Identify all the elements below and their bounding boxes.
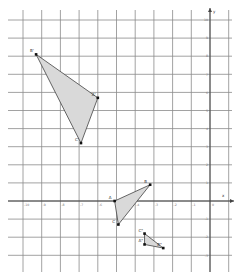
y-tick-label: 6 (206, 91, 208, 95)
vertex-label: A (109, 195, 112, 200)
y-tick-label: -1 (205, 217, 208, 221)
y-tick-label: 7 (206, 73, 208, 77)
vertex-point (143, 243, 146, 246)
vertex-label: B' (30, 48, 34, 53)
y-tick-label: 3 (206, 145, 208, 149)
y-axis-arrow-icon (208, 8, 212, 12)
y-tick-label: 9 (206, 36, 208, 40)
vertex-label: B" (157, 242, 162, 247)
x-tick-label: -4 (136, 203, 139, 207)
x-axis-label: x (222, 193, 225, 198)
triangle-abc (115, 185, 151, 225)
y-tick-label: -3 (205, 254, 208, 258)
x-tick-label: -10 (24, 203, 29, 207)
vertex-label: C (112, 219, 115, 224)
x-axis-arrow-icon (230, 199, 234, 203)
y-tick-label: 4 (206, 127, 208, 131)
vertex-label: A' (92, 92, 96, 97)
x-tick-label: -3 (155, 203, 158, 207)
vertex-label: C" (139, 228, 144, 233)
origin-label: 0 (212, 203, 214, 207)
x-tick-label: -1 (192, 203, 195, 207)
triangle-abc (36, 54, 98, 143)
x-tick-label: -9 (43, 203, 46, 207)
vertex-point (149, 183, 152, 186)
vertex-label: C' (75, 137, 79, 142)
vertex-point (97, 97, 100, 100)
vertex-label: A" (139, 238, 144, 243)
y-axis-label: y (213, 9, 216, 14)
vertex-point (117, 223, 120, 226)
y-tick-label: -2 (205, 235, 208, 239)
vertex-point (80, 142, 83, 145)
x-tick-label: -8 (61, 203, 64, 207)
coordinate-grid: xy-10-9-8-7-6-5-4-3-2-110987654321-1-2-3… (0, 0, 236, 276)
coordinate-plane-diagram: xy-10-9-8-7-6-5-4-3-2-110987654321-1-2-3… (0, 0, 236, 276)
vertex-point (162, 247, 165, 250)
y-tick-label: 1 (206, 181, 208, 185)
vertex-point (113, 200, 116, 203)
y-tick-label: 2 (206, 163, 208, 167)
x-tick-label: -7 (80, 203, 83, 207)
y-tick-label: 10 (204, 18, 208, 22)
x-tick-label: -6 (99, 203, 102, 207)
y-tick-label: 8 (206, 54, 208, 58)
vertex-label: B (144, 179, 147, 184)
vertex-point (35, 53, 38, 56)
y-tick-label: 5 (206, 109, 208, 113)
x-tick-label: -2 (174, 203, 177, 207)
vertex-point (143, 232, 146, 235)
